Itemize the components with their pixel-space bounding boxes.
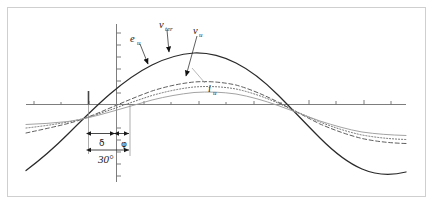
e-u-leader [140,44,148,64]
figure-root: e u v ter v u i u δ φ 30° [0,0,433,204]
v-ter-label-base: v [159,19,164,30]
curve-label-v-u: v u [193,25,203,39]
curve-label-i-u: i u [208,83,217,97]
phi-label: φ [121,139,127,149]
delta-label: δ [99,138,105,148]
curve-label-v-ter: v ter [159,19,173,33]
curve-label-e-u: e u [130,33,141,47]
i-u-leader [192,68,205,83]
v-ter-leader [167,30,169,52]
i-u-label-base: i [208,83,211,94]
v-ter-label-sub: ter [165,25,173,33]
v-u-leader [186,36,197,76]
x-axis-ticks [34,100,391,105]
v-u-label-sub: u [199,31,203,39]
curve-e-u [26,53,406,174]
thirty-degrees-label: 30° [97,153,114,165]
i-u-label-sub: u [213,89,217,97]
e-u-label-base: e [130,33,135,44]
v-u-label-base: v [193,25,198,36]
curve-i-u [26,92,406,136]
waveform-plot: e u v ter v u i u δ φ 30° [0,0,433,204]
e-u-label-sub: u [137,39,141,47]
axes-group [26,24,406,182]
